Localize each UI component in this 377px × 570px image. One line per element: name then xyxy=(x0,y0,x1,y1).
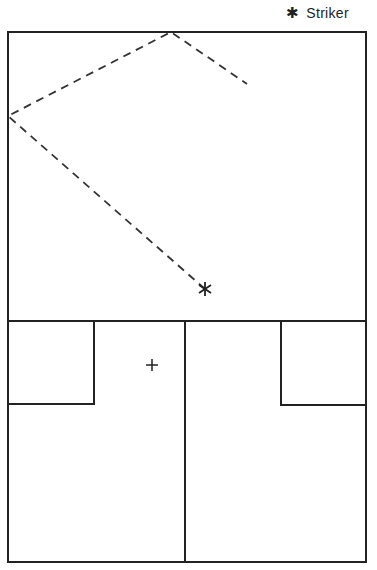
striker-asterisk-icon xyxy=(199,282,211,296)
left-service-box xyxy=(8,321,94,404)
court-outline xyxy=(8,32,366,562)
plus-icon xyxy=(146,359,158,371)
court-diagram xyxy=(0,0,377,570)
ball-path xyxy=(8,32,247,289)
right-service-box xyxy=(281,321,366,405)
